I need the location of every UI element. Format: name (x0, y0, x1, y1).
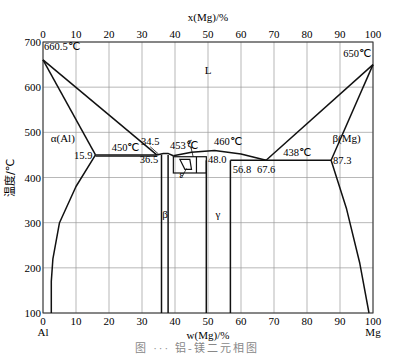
top-tick-label: 10 (71, 28, 83, 40)
x-tick-label: 40 (170, 315, 182, 327)
boundary-solvus-Mg (331, 160, 369, 313)
phase-labels: Lα(Al)β(Mg)βγεζ660.5℃650℃450℃453℃460℃438… (44, 41, 371, 220)
y-tick-label: 400 (25, 172, 42, 184)
phase-label: β (162, 208, 168, 220)
x-tick-label: 20 (104, 315, 116, 327)
x-tick-label: 70 (269, 315, 281, 327)
top-tick-label: 100 (365, 28, 382, 40)
y-tick-label: 200 (25, 262, 42, 274)
phase-label: γ (214, 208, 220, 220)
y-tick-label: 300 (25, 217, 42, 229)
top-tick-label: 90 (335, 28, 347, 40)
value-annotation: 438℃ (283, 147, 311, 158)
x-tick-label: 10 (71, 315, 83, 327)
value-annotation: 450℃ (112, 142, 140, 153)
y-tick-label: 100 (25, 307, 42, 319)
value-annotation: 650℃ (343, 48, 371, 59)
phase-diagram-chart: 0102030405060708090100010203040506070809… (0, 0, 394, 358)
top-tick-label: 60 (236, 28, 248, 40)
value-annotation: 660.5℃ (44, 41, 80, 52)
top-axis-label: x(Mg)/% (188, 11, 228, 24)
value-annotation: 15.9 (74, 150, 92, 161)
top-tick-label: 50 (203, 28, 215, 40)
top-tick-label: 40 (170, 28, 182, 40)
value-annotation: 48.0 (208, 154, 226, 165)
value-annotation: 56.8 (233, 164, 251, 175)
grid-lines (43, 42, 373, 313)
top-tick-label: 0 (40, 28, 46, 40)
boundary-solvus-Al (51, 155, 95, 313)
value-annotation: 453℃ (170, 140, 198, 151)
value-annotation: 87.3 (333, 155, 351, 166)
phase-label: β(Mg) (332, 132, 361, 145)
boundary-liquidus-Mg (266, 65, 373, 161)
boundary-solidus-Mg (331, 65, 373, 161)
phase-label: L (205, 64, 212, 76)
value-annotation: 36.5 (140, 154, 158, 165)
y-tick-label: 600 (25, 81, 42, 93)
top-tick-label: 20 (104, 28, 116, 40)
top-tick-label: 80 (302, 28, 314, 40)
y-axis-label: 温度/℃ (3, 159, 17, 197)
value-annotation: 460℃ (214, 136, 242, 147)
top-tick-label: 30 (137, 28, 149, 40)
mg-end-label: Mg (365, 326, 381, 338)
x-tick-label: 80 (302, 315, 314, 327)
phase-label: α(Al) (51, 132, 75, 145)
y-tick-label: 700 (25, 36, 42, 48)
phase-label: ε (179, 168, 184, 180)
x-tick-label: 50 (203, 315, 215, 327)
value-annotation: 34.5 (141, 136, 159, 147)
figure-caption: 图 ··· 铝-镁二元相图 (0, 339, 394, 355)
y-tick-label: 500 (25, 126, 42, 138)
boundary-liquidus-beta-dome (157, 154, 174, 156)
x-tick-label: 90 (335, 315, 347, 327)
value-annotation: 67.6 (257, 164, 275, 175)
x-tick-label: 60 (236, 315, 248, 327)
x-tick-label: 30 (137, 315, 149, 327)
al-end-label: Al (38, 326, 49, 338)
top-tick-label: 70 (269, 28, 281, 40)
